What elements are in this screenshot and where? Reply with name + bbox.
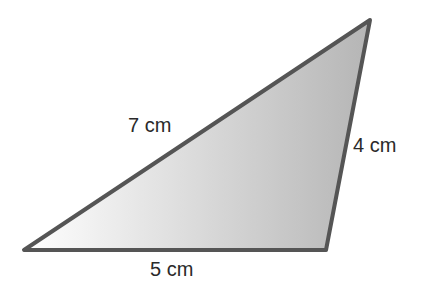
triangle-diagram: 7 cm 4 cm 5 cm bbox=[0, 0, 432, 291]
side-label-4cm: 4 cm bbox=[353, 134, 396, 157]
side-label-5cm: 5 cm bbox=[150, 258, 193, 281]
triangle-shape bbox=[24, 20, 370, 250]
side-label-7cm: 7 cm bbox=[128, 114, 171, 137]
